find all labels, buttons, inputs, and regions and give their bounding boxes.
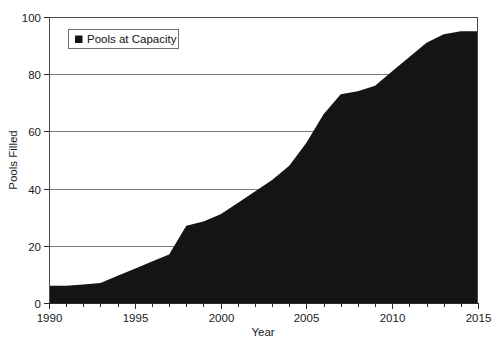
x-tick-label-2010: 2010	[380, 312, 406, 324]
legend-marker-filled-square	[75, 36, 83, 44]
y-tick-label-60: 60	[28, 126, 41, 138]
x-tick-label-2015: 2015	[466, 312, 492, 324]
y-tick-label-100: 100	[22, 12, 41, 24]
y-tick-label-20: 20	[28, 241, 41, 253]
y-tick-label-0: 0	[35, 298, 41, 310]
x-tick-label-1995: 1995	[123, 312, 149, 324]
x-tick-label-2000: 2000	[209, 312, 235, 324]
legend[interactable]: Pools at Capacity	[69, 30, 179, 49]
x-tick-label-1990: 1990	[37, 312, 63, 324]
y-tick-label-40: 40	[28, 184, 41, 196]
y-tick-label-80: 80	[28, 69, 41, 81]
y-axis-ticks: 020406080100	[22, 12, 49, 310]
x-tick-label-2005: 2005	[294, 312, 320, 324]
figure-canvas: 020406080100 199019952000200520102015 Po…	[0, 0, 500, 348]
legend-label-pools-at-capacity: Pools at Capacity	[87, 33, 177, 45]
x-axis-ticks: 199019952000200520102015	[37, 303, 492, 324]
y-axis-title: Pools Filled	[7, 130, 19, 189]
x-axis-title: Year	[251, 326, 274, 338]
area-chart: 020406080100 199019952000200520102015 Po…	[0, 0, 500, 348]
